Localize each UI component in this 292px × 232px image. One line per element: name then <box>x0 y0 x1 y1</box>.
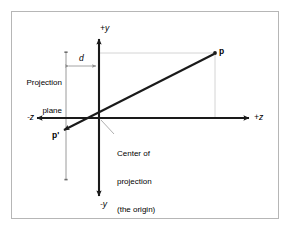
projection-plane-label-line1: Projection <box>10 78 62 87</box>
point-label-p-prime: p' <box>52 131 59 140</box>
diagram-canvas: +y -y +z -z d Projection plane p p' Cent… <box>0 0 292 232</box>
point-label-p: p <box>219 47 224 56</box>
origin-leader-line <box>101 120 114 134</box>
axis-label-y-positive: +y <box>100 24 109 33</box>
center-of-projection-line1: Center of <box>117 149 155 158</box>
center-of-projection-line2: projection <box>117 177 155 186</box>
projection-plane-label: Projection plane <box>10 60 62 134</box>
center-of-projection-line3: (the origin) <box>117 205 155 214</box>
axis-label-z-positive: +z <box>254 113 263 122</box>
distance-label-d: d <box>79 54 84 63</box>
projection-plane-label-line2: plane <box>10 106 62 115</box>
axis-label-y-negative: -y <box>100 200 107 209</box>
center-of-projection-note: Center of projection (the origin) <box>117 131 155 232</box>
point-p-marker <box>213 51 217 55</box>
projection-plane-line <box>64 51 67 180</box>
